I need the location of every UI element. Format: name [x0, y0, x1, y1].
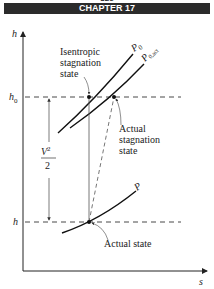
y-axis-label: h	[12, 28, 17, 39]
h-label: h	[13, 216, 18, 227]
isentropic-leader	[84, 77, 89, 94]
kinetic-energy-numerator: V2	[41, 145, 51, 157]
kinetic-energy-denominator: 2	[45, 160, 50, 171]
actual-state-point	[87, 220, 91, 224]
x-axis-label: s	[199, 276, 203, 287]
p-label: P	[131, 180, 143, 193]
h0-label: h0	[9, 91, 18, 105]
h-s-diagram: h s h0 h V2 2 P0 P0,act P Isentropic sta…	[0, 0, 214, 289]
isentropic-stagnation-label: Isentropic stagnation state	[60, 46, 104, 79]
p0act-isobar	[70, 64, 144, 128]
actual-stagnation-leader	[116, 99, 121, 125]
isentropic-stagnation-point	[87, 95, 91, 99]
actual-stagnation-point	[112, 95, 116, 99]
actual-state-label: Actual state	[104, 238, 152, 249]
actual-stagnation-label: Actual stagnation state	[119, 123, 163, 156]
actual-process-line	[89, 97, 114, 222]
